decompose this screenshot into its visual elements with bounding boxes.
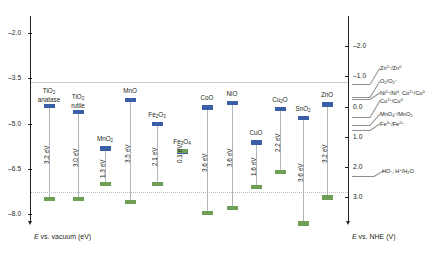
band-gap-label: 2.1 eV: [151, 147, 158, 165]
material-label: ZnO: [307, 92, 347, 99]
right-axis-tick-label: 2.0: [353, 163, 362, 170]
valence-band-marker: [44, 197, 55, 202]
valence-band-marker: [202, 211, 213, 216]
valence-band-marker: [322, 195, 333, 200]
redox-level-line: [352, 99, 370, 100]
left-axis-tick-label: –3.5: [8, 74, 21, 81]
left-axis-arrow-icon: [28, 221, 32, 225]
right-axis-tick: [345, 107, 349, 108]
conduction-band-marker: [322, 102, 333, 107]
left-axis-caption: E vs. vacuum (eV): [34, 233, 91, 240]
band-gap-label: 1.3 eV: [99, 159, 106, 177]
valence-band-marker: [298, 221, 309, 226]
redox-level-line: [352, 117, 370, 118]
band-gap-label: 3.2 eV: [43, 146, 50, 164]
material-label: TiO2rutile: [58, 94, 98, 109]
redox-level-line: [352, 176, 374, 177]
redox-couple-label: O2/O2–: [380, 77, 397, 85]
redox-couple-label: Ni2+/Ni0, Co2+/Co0: [380, 89, 425, 96]
redox-couple-label: Fe3+/Fe2+: [380, 120, 404, 127]
right-axis-tick: [345, 137, 349, 138]
redox-couple-label: HO·, H+/H2O: [382, 167, 414, 175]
right-axis-tick-label: –1.0: [353, 72, 366, 79]
redox-couple-label: MnO4–/MnO2: [380, 110, 413, 118]
conduction-band-marker: [298, 116, 309, 121]
left-axis-tick-label: –6.5: [8, 165, 21, 172]
material-label: Fe2O3: [137, 112, 177, 121]
band-gap-label: 3.6 eV: [226, 149, 233, 167]
material-label: Cu2O: [260, 97, 300, 106]
material-label: SnO2: [283, 106, 323, 115]
left-axis-tick: [28, 124, 32, 125]
right-axis-tick: [345, 76, 349, 77]
valence-band-marker: [275, 170, 286, 175]
band-gap-label: 2.2 eV: [274, 134, 281, 152]
left-axis-tick: [28, 78, 32, 79]
material-label: MnO2: [85, 136, 125, 145]
band-edge-diagram: –2.0–3.5–5.0–6.5–8.0 –2.0–1.00.01.02.03.…: [0, 0, 443, 253]
conduction-band-marker: [202, 105, 213, 110]
conduction-band-marker: [227, 101, 238, 106]
conduction-band-marker: [100, 146, 111, 151]
right-axis-arrow-icon: [346, 221, 350, 225]
right-axis-tick-label: 0.0: [353, 103, 362, 110]
redox-couple-label: Zn2+/Zn0: [380, 64, 401, 71]
left-axis-tick: [28, 33, 32, 34]
left-axis-tick: [28, 169, 32, 170]
conduction-band-marker: [125, 98, 136, 103]
valence-band-marker: [251, 185, 262, 190]
right-axis-tick-label: 3.0: [353, 193, 362, 200]
right-axis-caption: E vs. NHE (V): [352, 233, 396, 240]
left-axis-tick: [28, 214, 32, 215]
band-gap-label: 0.1 eV: [176, 144, 183, 162]
band-gap-label: 1.6 eV: [250, 158, 257, 176]
band-gap-label: 3.5 eV: [124, 144, 131, 162]
band-gap-label: 3.0 eV: [72, 149, 79, 167]
conduction-band-marker: [73, 110, 84, 115]
material-label: CuO: [236, 130, 276, 137]
band-gap-label: 3.6 eV: [297, 164, 304, 182]
redox-level-line: [352, 84, 370, 85]
material-label: MnO: [110, 88, 150, 95]
left-axis-tick-label: –5.0: [8, 120, 21, 127]
right-axis-tick: [345, 197, 349, 198]
conduction-band-marker: [251, 140, 262, 145]
material-label: NiO: [212, 91, 252, 98]
redox-level-line: [352, 130, 370, 131]
redox-level-line: [352, 125, 370, 126]
conduction-band-marker: [44, 104, 55, 109]
left-axis-tick-label: –8.0: [8, 210, 21, 217]
conduction-band-marker: [152, 122, 163, 127]
band-gap-label: 3.2 eV: [321, 144, 328, 162]
redox-level-line: [352, 97, 370, 98]
valence-band-marker: [227, 206, 238, 211]
right-axis-tick-label: 1.0: [353, 133, 362, 140]
right-axis-tick: [345, 46, 349, 47]
left-axis-tick-label: –2.0: [8, 29, 21, 36]
valence-band-marker: [125, 200, 136, 205]
right-axis-tick: [345, 167, 349, 168]
band-gap-label: 3.6 eV: [201, 153, 208, 171]
valence-band-marker: [73, 197, 84, 202]
left-axis-line: [30, 16, 31, 221]
reference-line-upper: [31, 82, 348, 83]
redox-couple-label: Cu2+/Cu0: [380, 97, 403, 104]
valence-band-marker: [152, 182, 163, 187]
valence-band-marker: [100, 182, 111, 187]
right-axis-tick-label: –2.0: [353, 42, 366, 49]
